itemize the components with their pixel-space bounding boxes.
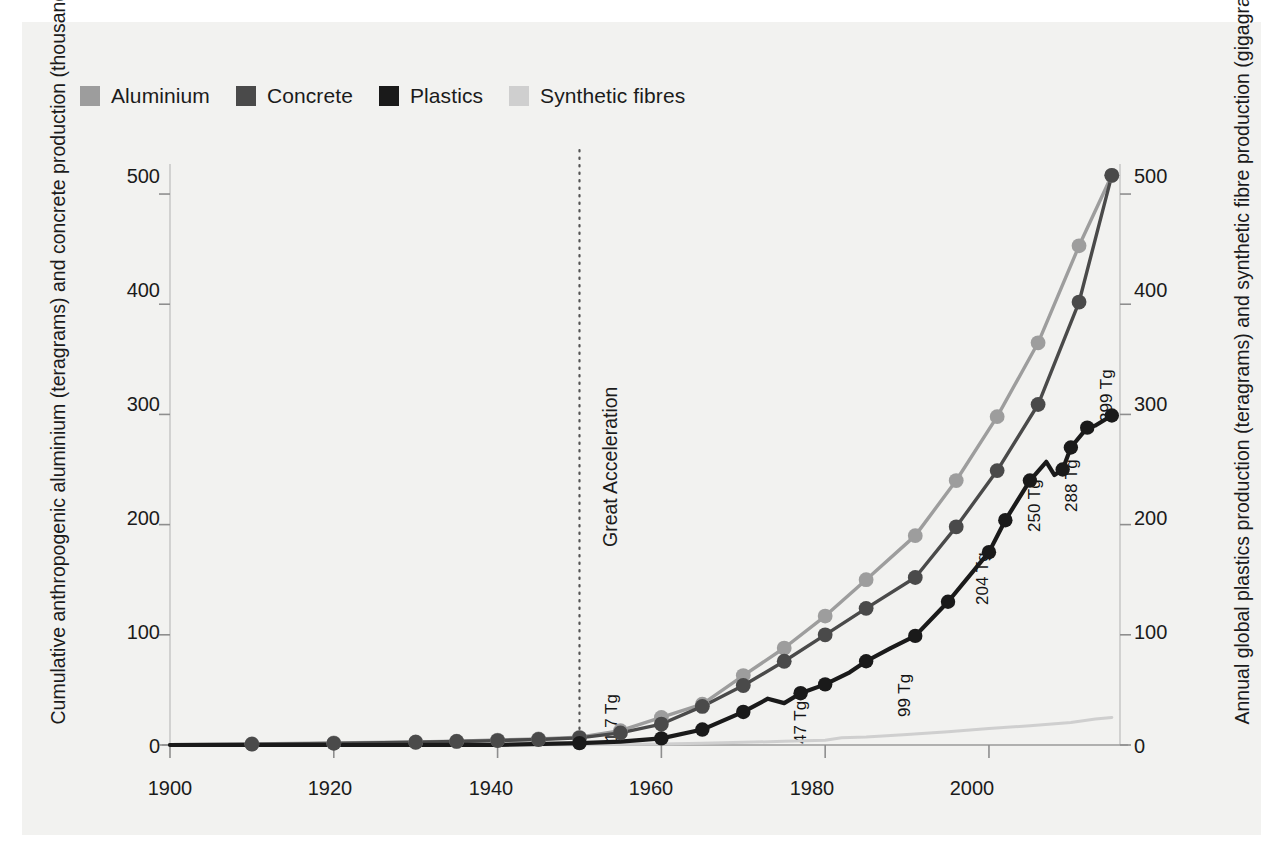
data-point-aluminium <box>1072 238 1087 253</box>
data-point-plastics <box>695 722 709 736</box>
data-point-concrete <box>490 733 505 748</box>
data-point-plastics <box>1055 462 1069 476</box>
data-point-concrete <box>449 734 464 749</box>
data-point-concrete <box>736 678 751 693</box>
data-point-plastics <box>654 731 668 745</box>
data-point-plastics <box>998 513 1012 527</box>
data-point-plastics <box>818 677 832 691</box>
data-point-plastics <box>1105 408 1119 422</box>
data-point-concrete <box>1072 295 1087 310</box>
data-point-concrete <box>1104 168 1119 183</box>
data-point-concrete <box>990 463 1005 478</box>
data-point-plastics <box>793 686 807 700</box>
data-point-aluminium <box>908 528 923 543</box>
data-point-concrete <box>245 737 260 752</box>
data-point-aluminium <box>990 409 1005 424</box>
data-point-plastics <box>1023 473 1037 487</box>
data-point-concrete <box>695 699 710 714</box>
data-point-concrete <box>654 717 669 732</box>
data-point-plastics <box>941 595 955 609</box>
data-point-aluminium <box>777 641 792 656</box>
data-point-concrete <box>859 601 874 616</box>
data-point-plastics <box>859 654 873 668</box>
data-point-aluminium <box>1031 335 1046 350</box>
data-point-concrete <box>908 570 923 585</box>
figure-panel: Aluminium Concrete Plastics Synthetic fi… <box>22 22 1261 835</box>
data-point-concrete <box>777 654 792 669</box>
series-line-plastics <box>170 416 1112 745</box>
data-point-plastics <box>908 629 922 643</box>
data-point-plastics <box>572 736 586 750</box>
data-point-concrete <box>949 519 964 534</box>
data-point-concrete <box>408 735 423 750</box>
data-point-concrete <box>613 725 628 740</box>
data-point-aluminium <box>818 609 833 624</box>
data-point-concrete <box>531 732 546 747</box>
plot-area: Cumulative anthropogenic aluminium (tera… <box>22 22 1261 835</box>
data-point-plastics <box>1064 440 1078 454</box>
data-point-concrete <box>326 736 341 751</box>
data-point-aluminium <box>949 473 964 488</box>
data-point-concrete <box>818 627 833 642</box>
chart-canvas <box>22 22 1261 835</box>
data-point-plastics <box>1080 420 1094 434</box>
series-line-aluminium <box>170 175 1112 744</box>
data-point-plastics <box>736 705 750 719</box>
page-root: Aluminium Concrete Plastics Synthetic fi… <box>0 0 1283 857</box>
data-point-plastics <box>982 545 996 559</box>
data-point-aluminium <box>859 572 874 587</box>
data-point-concrete <box>1031 397 1046 412</box>
